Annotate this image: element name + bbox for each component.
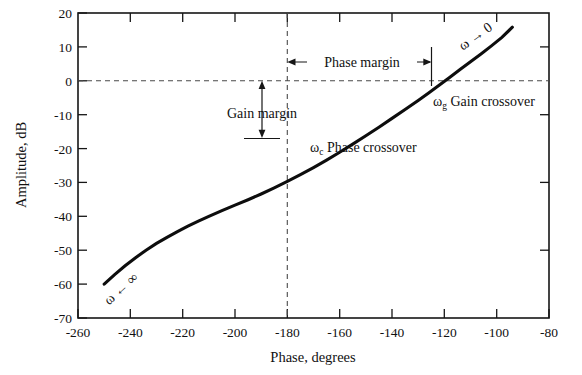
phase-margin-arrow-right-icon [423, 59, 431, 66]
y-tick-label: -10 [54, 108, 72, 123]
y-tick-label: 0 [65, 74, 72, 89]
y-tick-label: -40 [54, 209, 72, 224]
x-tick-label: -120 [432, 325, 457, 340]
x-axis-title: Phase, degrees [270, 349, 356, 365]
phase-crossover-omega: ω [310, 140, 319, 155]
x-tick-label: -140 [380, 325, 405, 340]
phase-crossover-annotation: ωc Phase crossover [310, 140, 417, 157]
y-tick-labels: 20 10 0 -10 -20 -30 -40 -50 -60 -70 [54, 6, 72, 326]
phase-margin-arrow-left-icon [287, 59, 295, 66]
y-tick-label: -30 [54, 175, 72, 190]
y-tick-label: -20 [54, 142, 72, 157]
x-tick-label: -240 [118, 325, 143, 340]
x-tick-label: -160 [327, 325, 352, 340]
chart-svg: 20 10 0 -10 -20 -30 -40 -50 -60 -70 [0, 0, 582, 375]
y-axis-title: Amplitude, dB [13, 122, 29, 208]
gain-crossover-annotation: ωg Gain crossover [433, 94, 535, 111]
gain-margin-label: Gain margin [227, 106, 297, 121]
x-tick-label: -100 [484, 325, 509, 340]
x-tick-label: -220 [170, 325, 195, 340]
gain-margin-arrow-up-icon [259, 81, 266, 89]
gain-margin-arrow-down-icon [259, 130, 266, 138]
phase-margin-label: Phase margin [324, 55, 400, 70]
omega-to-infinity-label: ω ← ∞ [101, 270, 141, 308]
gain-crossover-omega: ω [433, 94, 442, 109]
x-tick-label: -260 [66, 325, 91, 340]
svg-text:ωc Phase crossover: ωc Phase crossover [310, 140, 417, 157]
phase-crossover-text: Phase crossover [323, 140, 417, 155]
gain-margin-annotation: Gain margin [227, 81, 297, 139]
y-tick-label: -50 [54, 243, 72, 258]
svg-text:ωg Gain crossover: ωg Gain crossover [433, 94, 535, 111]
x-tick-label: -80 [540, 325, 558, 340]
phase-margin-annotation: Phase margin [287, 47, 431, 86]
x-tick-label: -180 [275, 325, 300, 340]
gain-crossover-text: Gain crossover [447, 94, 535, 109]
y-tick-label: -70 [54, 311, 72, 326]
nichols-chart-figure: 20 10 0 -10 -20 -30 -40 -50 -60 -70 [0, 0, 582, 375]
y-tick-label: -60 [54, 277, 72, 292]
x-tick-label: -200 [223, 325, 248, 340]
y-tick-label: 20 [59, 6, 73, 21]
y-tick-label: 10 [59, 40, 73, 55]
x-tick-labels: -260 -240 -220 -200 -180 -160 -140 -120 … [66, 325, 559, 340]
